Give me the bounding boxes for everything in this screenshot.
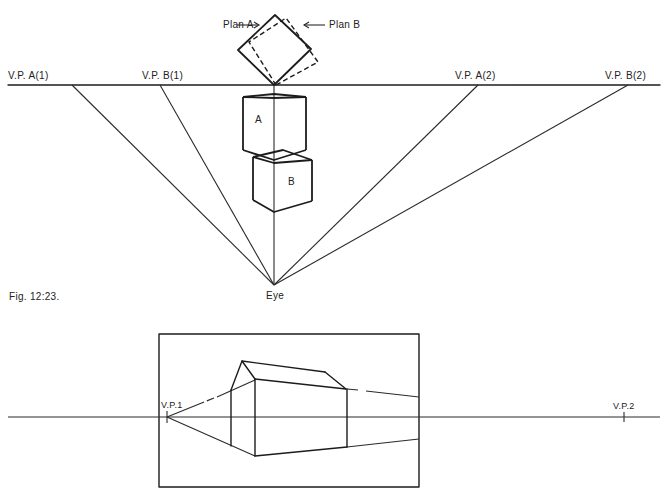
bottom-diagram xyxy=(8,334,660,487)
house xyxy=(231,361,347,456)
vp-b2-label: V.P. B(2) xyxy=(605,70,646,81)
box-a-label: A xyxy=(255,114,262,125)
picture-frame xyxy=(159,334,419,487)
plan-b-label: Plan B xyxy=(329,19,360,30)
sight-line-vp-a2 xyxy=(274,85,478,285)
box-b-label: B xyxy=(288,176,295,187)
vp2-label: V.P.2 xyxy=(613,401,635,411)
perspective-diagram xyxy=(0,0,669,496)
convergence-lower xyxy=(167,417,255,456)
vp-a1-label: V.P. A(1) xyxy=(8,70,49,81)
vp-a2-label: V.P. A(2) xyxy=(455,70,496,81)
extension-upper-b xyxy=(366,391,419,397)
convergence-upper-b xyxy=(217,380,255,397)
top-diagram xyxy=(8,15,660,285)
eye-label: Eye xyxy=(266,290,284,301)
figure-caption: Fig. 12:23. xyxy=(9,291,60,302)
extension-lower xyxy=(347,439,419,447)
extension-upper-a xyxy=(347,389,358,390)
box-b xyxy=(253,150,312,212)
sight-line-vp-b2 xyxy=(274,85,628,285)
vp-b1-label: V.P. B(1) xyxy=(142,70,183,81)
plan-a-label: Plan A xyxy=(223,19,254,30)
vp1-label: V.P.1 xyxy=(161,400,183,410)
